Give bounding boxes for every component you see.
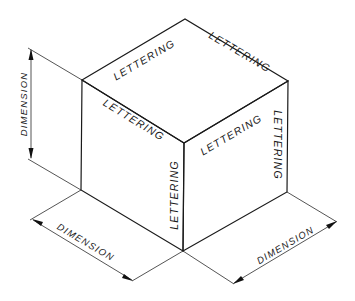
top-face-lettering-right: LETTERING — [207, 29, 273, 75]
isometric-cube-drawing: DIMENSION DIMENSION DIMENSION LETTERING … — [0, 0, 355, 301]
right-bottom-dimension-label: DIMENSION — [255, 224, 316, 266]
right-bottom-dimension: DIMENSION — [233, 221, 337, 284]
left-face-lettering-vertical: LETTERING — [168, 160, 180, 230]
left-bottom-dimension: DIMENSION — [32, 219, 133, 281]
vertical-dimension: DIMENSION — [18, 49, 34, 159]
left-face-lettering-horizontal: LETTERING — [101, 96, 167, 143]
right-face-lettering-horizontal: LETTERING — [198, 112, 264, 158]
vertical-dimension-label: DIMENSION — [18, 72, 29, 137]
right-face-lettering-vertical: LETTERING — [272, 110, 284, 180]
left-bottom-dimension-label: DIMENSION — [55, 221, 116, 263]
